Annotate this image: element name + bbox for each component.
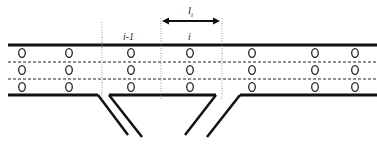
segment-label-current: i	[188, 31, 191, 42]
vehicle-icon	[249, 66, 256, 75]
vehicle-grid	[19, 49, 359, 92]
vehicle-icon	[66, 83, 73, 92]
vehicle-icon	[187, 66, 194, 75]
vehicle-icon	[352, 83, 359, 92]
vehicle-icon	[312, 83, 319, 92]
vehicle-icon	[66, 66, 73, 75]
segment-label-prev: i-1	[123, 31, 134, 42]
vehicle-icon	[19, 66, 26, 75]
vehicle-icon	[187, 49, 194, 58]
vehicle-icon	[352, 66, 359, 75]
vehicle-icon	[66, 49, 73, 58]
segment-length-label: li	[188, 4, 193, 19]
vehicle-icon	[312, 49, 319, 58]
vehicle-icon	[249, 49, 256, 58]
vehicle-icon	[352, 49, 359, 58]
on-ramp-inner-edge	[185, 95, 216, 135]
vehicle-icon	[187, 83, 194, 92]
vehicle-icon	[128, 66, 135, 75]
vehicle-icon	[19, 83, 26, 92]
vehicle-icon	[128, 49, 135, 58]
vehicle-icon	[312, 66, 319, 75]
vehicle-icon	[128, 83, 135, 92]
vehicle-icon	[249, 83, 256, 92]
vehicle-icon	[19, 49, 26, 58]
freeway-diagram: li i-1 i	[0, 0, 377, 150]
